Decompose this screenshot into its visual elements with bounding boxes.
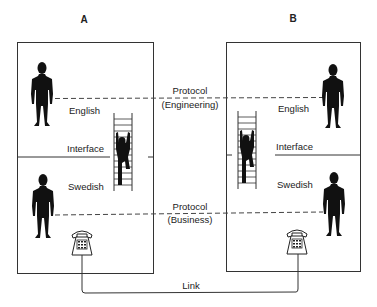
protocol-business-title: Protocol [173, 201, 208, 212]
node-b-interface-label: Interface [276, 141, 313, 152]
person-a-english-icon [31, 62, 53, 126]
protocol-engineering-title: Protocol [173, 85, 208, 96]
node-b-english-label: English [278, 103, 309, 114]
protocol-engineering-subtitle: (Engineering) [161, 99, 218, 110]
person-b-swedish-icon [323, 172, 345, 236]
node-b-swedish-label: Swedish [277, 179, 313, 190]
telephone-b-icon [287, 230, 307, 254]
protocol-business-subtitle: (Business) [168, 214, 213, 225]
node-a-english-label: English [69, 105, 100, 116]
person-a-swedish-icon [32, 174, 54, 238]
node-a-swedish-label: Swedish [68, 181, 104, 192]
climbing-person-ladder-a-icon [114, 113, 132, 191]
node-b-label: B [289, 13, 296, 24]
node-a-label: A [80, 14, 87, 25]
telephone-a-icon [72, 231, 92, 255]
climbing-person-ladder-b-icon [238, 111, 256, 189]
person-b-english-icon [322, 64, 344, 128]
node-a-interface-label: Interface [67, 143, 104, 154]
diagram-canvas [0, 0, 377, 307]
link-label: Link [182, 280, 199, 291]
